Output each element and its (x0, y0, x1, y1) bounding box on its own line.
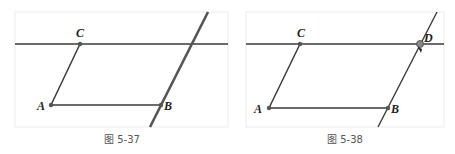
point-b[interactable] (159, 103, 163, 107)
point-d[interactable] (417, 41, 424, 48)
point-b[interactable] (386, 106, 390, 110)
panel-border (246, 12, 444, 127)
figure-5-37: C A B 图 5-37 (15, 12, 228, 145)
point-a[interactable] (49, 103, 53, 107)
caption-5-38: 图 5-38 (327, 134, 363, 145)
point-a[interactable] (267, 106, 271, 110)
label-c: C (76, 26, 85, 40)
point-c[interactable] (298, 42, 302, 46)
label-a: A (36, 99, 45, 113)
caption-5-37: 图 5-37 (104, 134, 140, 145)
point-c[interactable] (78, 42, 82, 46)
figure-5-38: C A B D 图 5-38 (246, 12, 444, 145)
label-c: C (297, 26, 306, 40)
label-b: B (163, 99, 172, 113)
panel-border (15, 12, 228, 127)
label-a: A (253, 102, 262, 116)
label-d: D (423, 31, 433, 45)
figure-canvas: C A B 图 5-37 C A B D 图 5-38 (0, 0, 455, 154)
label-b: B (390, 102, 399, 116)
